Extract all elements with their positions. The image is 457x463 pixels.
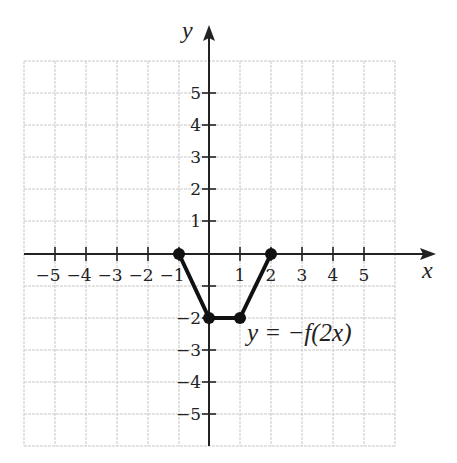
svg-text:−4: −4 [176,372,201,392]
svg-text:2: 2 [190,179,201,199]
svg-text:−5: −5 [176,404,201,424]
svg-text:2: 2 [266,265,277,285]
svg-text:4: 4 [190,115,201,135]
equation-label: y = −f(2x) [244,319,352,347]
svg-text:−5: −5 [35,265,60,285]
svg-text:−2: −2 [176,308,201,328]
svg-text:4: 4 [328,265,339,285]
svg-text:−2: −2 [128,265,153,285]
svg-text:−3: −3 [97,265,122,285]
svg-text:1: 1 [235,265,246,285]
x-tick-labels: −5 −4 −3 −2 −1 1 2 3 4 5 [35,265,369,285]
y-axis-label: y [180,17,193,43]
svg-text:3: 3 [297,265,308,285]
svg-text:−3: −3 [176,340,201,360]
svg-text:3: 3 [190,147,201,167]
svg-text:5: 5 [359,265,370,285]
axes [24,34,428,446]
svg-text:−4: −4 [66,265,91,285]
svg-text:1: 1 [190,211,201,231]
svg-text:−1: −1 [159,265,184,285]
svg-text:5: 5 [190,83,201,103]
graph: −5 −4 −3 −2 −1 1 2 3 4 5 5 4 3 2 1 −2 −3… [0,0,457,463]
x-axis-label: x [421,257,433,283]
